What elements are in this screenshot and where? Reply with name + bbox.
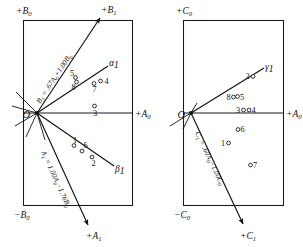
data-point-label: 8 [72,83,76,92]
data-point [74,76,78,80]
panel-ab: O +B0 +B1 +A0 −B0 +A1 α1 β1 B1 = .67A0+1… [12,5,151,242]
data-point-label: 8 [227,93,231,102]
panel-ab-label-minus-b0: −B0 [14,210,30,221]
data-point-label: 1 [73,136,77,145]
data-point-label: 7 [93,85,97,94]
panel-ab-label-beta1: β1 [114,164,124,176]
data-point-label: 3 [236,106,240,115]
data-point-label: 4 [252,106,256,115]
panel-ac-points: 2 8 5 3 4 6 1 7 [221,72,257,170]
panel-ac-label-plus-a0: +A0 [286,109,302,120]
data-point-label: 6 [241,125,245,134]
panel-ac: O +C0 +A0 −C0 +C1 γ1 C1 = .60A0−1.00C0 2… [170,6,302,243]
diagram-canvas: O +B0 +B1 +A0 −B0 +A1 α1 β1 B1 = .67A0+1… [0,0,303,247]
panel-ab-label-plus-a1: +A1 [86,231,102,242]
data-point [232,95,236,99]
data-point-label: 2 [92,159,96,168]
data-point [99,79,103,83]
panel-ac-origin-label: O [178,109,186,120]
panel-ab-origin-label: O [23,109,31,120]
data-point [80,149,84,153]
data-point-label: 7 [253,161,257,170]
data-point [242,108,246,112]
data-point-label: 1 [221,139,225,148]
data-point [236,95,240,99]
data-point-label: 5 [70,69,74,78]
panel-ab-origin-dot [35,111,39,115]
data-point [236,128,240,132]
panel-ab-ray-a1 [37,113,88,225]
data-point-label: 2 [246,72,250,81]
data-point [247,108,251,112]
panel-ac-label-gamma1: γ1 [265,62,274,74]
data-point-label: 6 [84,141,88,150]
panel-ac-label-plus-c1: +C1 [240,231,256,242]
panel-ab-label-plus-b0: +B0 [16,6,32,17]
panel-ab-equation-a1: A1 = 1.00A0−1.76B0 [38,148,73,209]
figure-root: O +B0 +B1 +A0 −B0 +A1 α1 β1 B1 = .67A0+1… [0,0,303,247]
data-point [227,141,231,145]
panel-ac-label-plus-c0: +C0 [176,6,193,17]
panel-ab-points: 5 8 7 4 3 1 6 2 [70,69,109,169]
panel-ab-label-plus-a0: +A0 [135,109,151,120]
panel-ab-label-plus-b1: +B1 [101,5,117,16]
panel-ac-origin-dot [189,111,193,115]
data-point [93,104,97,108]
data-point-label: 4 [105,77,109,86]
data-point-label: 3 [93,109,97,118]
panel-ac-label-minus-c0: −C0 [174,210,191,221]
panel-ab-label-alpha1: α1 [109,58,119,70]
data-point-label: 5 [240,93,244,102]
data-point [251,75,255,79]
panel-ab-equation-b1: B1 = .67A0+1.00B0 [34,52,74,106]
data-point [249,163,253,167]
panel-ab-ray-b1 [37,18,100,113]
